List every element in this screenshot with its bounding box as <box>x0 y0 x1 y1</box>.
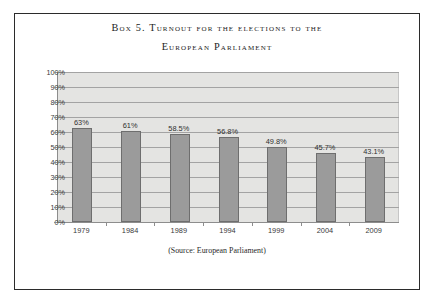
bar-2004 <box>316 153 336 222</box>
gridline <box>58 72 399 73</box>
gridline <box>58 102 399 103</box>
page-title: Box 5. Turnout for the elections to the … <box>14 18 420 56</box>
x-axis-tick-label: 2009 <box>350 226 398 235</box>
x-axis-tick-label: 1979 <box>57 226 105 235</box>
gridline <box>58 87 399 88</box>
y-axis-tick-mark <box>54 207 57 208</box>
bar-value-label: 43.1% <box>350 147 398 156</box>
y-axis-tick-mark <box>54 87 57 88</box>
bar-1984 <box>121 131 141 223</box>
bar-1999 <box>267 147 287 222</box>
x-axis-tick-label: 1994 <box>204 226 252 235</box>
y-axis-tick-mark <box>54 72 57 73</box>
title-line-1: Box 5. Turnout for the elections to the <box>112 22 323 33</box>
bar-1979 <box>72 128 92 223</box>
y-axis-tick-label: 60% <box>31 128 69 137</box>
bar-value-label: 56.8% <box>204 127 252 136</box>
y-axis-tick-label: 100% <box>31 68 69 77</box>
x-axis-tick-label: 2004 <box>301 226 349 235</box>
y-axis-tick-label: 20% <box>31 188 69 197</box>
y-axis-tick-mark <box>54 132 57 133</box>
x-axis-tick-label: 1984 <box>106 226 154 235</box>
box-figure: Box 5. Turnout for the elections to the … <box>0 0 435 305</box>
bar-value-label: 49.8% <box>252 137 300 146</box>
bar-value-label: 58.5% <box>155 124 203 133</box>
y-axis-tick-mark <box>54 192 57 193</box>
gridline <box>58 117 399 118</box>
y-axis-tick-label: 10% <box>31 203 69 212</box>
x-axis-tick-label: 1999 <box>252 226 300 235</box>
bar-value-label: 61% <box>106 121 154 130</box>
bar-1989 <box>170 134 190 222</box>
title-line-2: European Parliament <box>14 37 420 56</box>
y-axis-tick-mark <box>54 177 57 178</box>
bar-value-label: 45.7% <box>301 143 349 152</box>
turnout-bar-chart: 100%90%80%70%60%50%40%30%20%10%0%63%1979… <box>25 63 410 248</box>
bar-value-label: 63% <box>57 118 105 127</box>
y-axis-tick-mark <box>54 102 57 103</box>
y-axis-tick-label: 50% <box>31 143 69 152</box>
bar-1994 <box>219 137 239 222</box>
y-axis-tick-label: 90% <box>31 83 69 92</box>
y-axis-tick-label: 30% <box>31 173 69 182</box>
y-axis-tick-label: 80% <box>31 98 69 107</box>
y-axis-tick-label: 40% <box>31 158 69 167</box>
x-axis-tick-label: 1989 <box>155 226 203 235</box>
y-axis-tick-mark <box>54 147 57 148</box>
bar-2009 <box>365 157 385 222</box>
y-axis-tick-mark <box>54 162 57 163</box>
source-caption: (Source: European Parliament) <box>14 246 420 255</box>
y-axis-tick-mark <box>54 222 57 223</box>
